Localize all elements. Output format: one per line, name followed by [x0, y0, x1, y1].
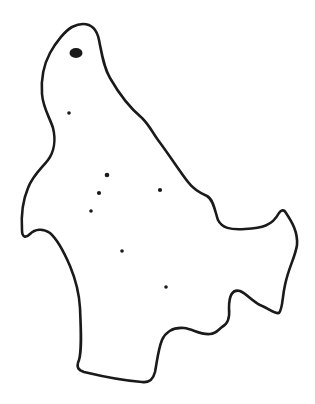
region-boundary: [22, 24, 297, 382]
city-marker: [67, 111, 71, 115]
city-marker: [164, 285, 168, 289]
city-marker: [158, 188, 162, 192]
capital-marker: [70, 48, 83, 58]
city-markers: [67, 48, 168, 289]
city-marker: [97, 191, 101, 195]
outline-map: [0, 0, 315, 404]
city-marker: [120, 249, 124, 253]
city-marker: [105, 173, 110, 178]
city-marker: [89, 209, 93, 213]
